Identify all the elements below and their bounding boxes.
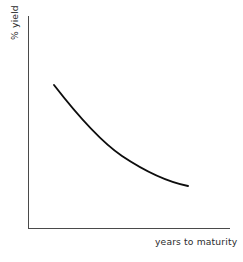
yield-curve-line [54,85,188,186]
x-axis-label: years to maturity [155,236,237,247]
y-axis-label: % yield [9,0,20,46]
yield-curve-figure: years to maturity % yield [0,0,243,262]
chart-canvas [0,0,243,262]
